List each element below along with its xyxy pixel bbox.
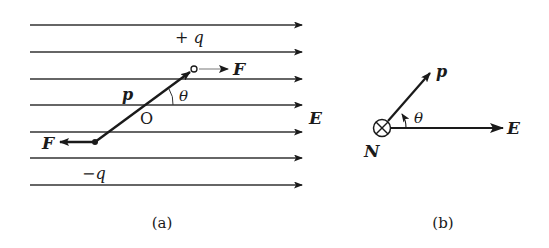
center-label: O bbox=[140, 109, 153, 128]
force-label-left: F bbox=[41, 133, 56, 153]
torque-label: N bbox=[363, 141, 381, 161]
caption-a: (a) bbox=[152, 214, 173, 232]
angle-arc-b bbox=[402, 114, 406, 128]
caption-b: (b) bbox=[432, 214, 453, 232]
field-lines bbox=[30, 25, 302, 185]
field-label-b: E bbox=[506, 118, 521, 138]
angle-arc bbox=[169, 89, 173, 105]
angle-label: θ bbox=[179, 87, 188, 105]
figure-a: + q −q p O θ F F E (a) bbox=[30, 25, 323, 232]
negative-charge-label: −q bbox=[82, 164, 106, 183]
dipole-arrow-b bbox=[388, 73, 430, 121]
dipole-label: p bbox=[122, 85, 133, 104]
angle-label-b: θ bbox=[414, 109, 423, 127]
field-label: E bbox=[308, 108, 323, 128]
torque-into-page-icon bbox=[374, 120, 391, 137]
dipole-diagram: + q −q p O θ F F E (a) p θ E N (b) bbox=[0, 0, 549, 248]
figure-b: p θ E N (b) bbox=[363, 62, 521, 232]
dipole-label-b: p bbox=[436, 62, 447, 81]
positive-charge-dot bbox=[191, 66, 197, 72]
force-label-right: F bbox=[232, 59, 247, 79]
positive-charge-label: + q bbox=[175, 28, 204, 47]
